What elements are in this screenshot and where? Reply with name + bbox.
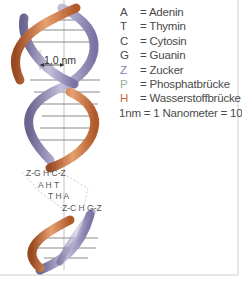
legend-symbol: T (120, 19, 140, 33)
scale-label: 1,0 nm (44, 54, 76, 66)
legend-item-zucker: Z = Zucker (120, 63, 242, 77)
legend-symbol: H (120, 91, 140, 105)
base-pair-row-3: T H A (48, 191, 69, 201)
legend-symbol: G (120, 48, 140, 62)
legend-item-thymin: T = Thymin (120, 19, 242, 33)
legend-label: = Guanin (140, 48, 185, 62)
legend-item-wasserstoffbruecke: H = Wasserstoffbrücke (120, 91, 242, 105)
legend-label: = Cytosin (140, 34, 186, 48)
base-pair-row-4: Z-C H G-Z (62, 203, 102, 213)
dna-double-helix (0, 0, 110, 282)
legend-label: = Zucker (140, 63, 183, 77)
legend-item-guanin: G = Guanin (120, 48, 242, 62)
legend-symbol: A (120, 5, 140, 19)
legend-item-cytosin: C = Cytosin (120, 34, 242, 48)
nanometer-definition: 1nm = 1 Nanometer = 10−9 m (119, 106, 242, 120)
legend-symbol: C (120, 34, 140, 48)
legend-item-adenin: A = Adenin (120, 5, 242, 19)
legend-symbol: P (120, 77, 140, 91)
legend-label: = Thymin (140, 19, 186, 33)
legend-symbol: Z (120, 63, 140, 77)
legend-label: = Adenin (140, 5, 184, 19)
legend: A = Adenin T = Thymin C = Cytosin G = Gu… (120, 5, 242, 120)
base-pair-row-2: A H T (38, 180, 59, 190)
nanometer-text: 1nm = 1 Nanometer = 10 (119, 107, 242, 119)
legend-item-phosphatbruecke: P = Phosphatbrücke (120, 77, 242, 91)
legend-label: = Wasserstoffbrücke (140, 91, 241, 105)
legend-label: = Phosphatbrücke (140, 77, 230, 91)
base-pair-row-1: Z-G H C-Z (26, 168, 66, 178)
